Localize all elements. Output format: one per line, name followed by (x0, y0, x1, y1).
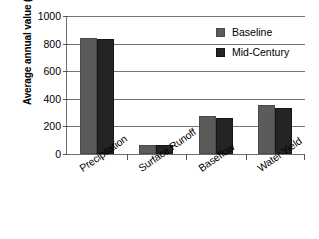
y-tick-label: 800 (43, 38, 61, 49)
y-tick-mark (63, 99, 68, 100)
bar-group (139, 16, 173, 154)
bar-chart-figure: Average annual value (mm) 02004006008001… (0, 0, 319, 239)
y-tick-label: 0 (55, 149, 61, 160)
y-tick-label: 1000 (38, 11, 61, 22)
bar-group (80, 16, 114, 154)
chart-legend: Baseline Mid-Century (216, 22, 312, 62)
y-tick-mark (63, 16, 68, 17)
bar-baseline (80, 38, 97, 154)
y-tick-label: 600 (43, 66, 61, 77)
bar-mid-century (97, 39, 114, 154)
baseline-swatch-icon (216, 28, 225, 37)
y-tick-mark (63, 126, 68, 127)
y-tick-mark (63, 71, 68, 72)
legend-item-baseline: Baseline (216, 22, 312, 42)
legend-label-baseline: Baseline (232, 27, 272, 38)
legend-label-mid-century: Mid-Century (232, 47, 289, 58)
y-tick-label: 200 (43, 121, 61, 132)
bar-baseline (199, 116, 216, 154)
y-tick-label: 400 (43, 94, 61, 105)
x-axis-category-labels: PrecipitationSurface RunoffBaseflowWater… (66, 158, 305, 236)
bar-baseline (258, 105, 275, 154)
y-tick-mark (63, 154, 68, 155)
legend-item-mid-century: Mid-Century (216, 42, 312, 62)
y-tick-mark (63, 44, 68, 45)
y-axis-title: Average annual value (mm) (22, 0, 33, 117)
mid-century-swatch-icon (216, 48, 225, 57)
